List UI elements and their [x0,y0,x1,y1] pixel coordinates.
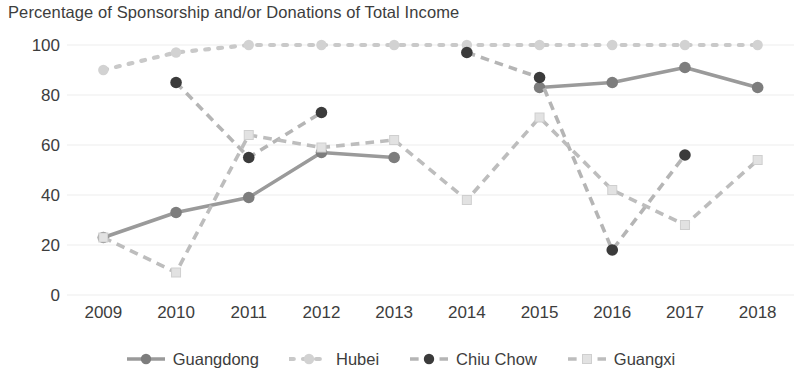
series-line [103,45,757,70]
data-point [170,77,182,89]
x-axis-tick-label: 2014 [448,303,486,323]
data-point [535,113,544,122]
data-point [679,149,691,161]
plot-area [67,45,794,295]
data-point [388,152,400,164]
series-line [176,83,321,158]
legend-item-guangxi[interactable]: Guangxi [567,350,675,369]
data-point [534,40,544,50]
x-axis-tick-label: 2015 [521,303,559,323]
data-point [534,72,546,84]
data-point [679,62,691,74]
x-axis-tick-label: 2011 [230,303,267,323]
legend-item-hubei[interactable]: Hubei [289,350,379,369]
data-point [753,156,762,165]
x-axis-tick-label: 2016 [593,303,631,323]
data-point [461,47,473,59]
legend-label: Chiu Chow [456,350,537,369]
data-point [172,268,181,277]
y-axis-tick-label: 0 [8,287,60,304]
data-point [680,221,689,230]
legend-label: Guangdong [173,350,259,369]
y-axis-tick-label: 100 [8,37,60,54]
data-point [243,192,255,204]
data-point [243,152,255,164]
data-point [752,82,764,94]
data-point [317,143,326,152]
data-point [98,65,108,75]
chart-legend: GuangdongHubeiChiu ChowGuangxi [0,345,801,373]
data-point [316,107,328,119]
chart-canvas [67,45,794,295]
legend-key-icon [289,352,329,366]
y-axis-tick-label: 40 [8,187,60,204]
data-point [244,40,254,50]
y-axis-tick-label: 20 [8,237,60,254]
chart-title: Percentage of Sponsorship and/or Donatio… [8,3,459,22]
y-axis-tick-label: 80 [8,87,60,104]
x-axis-tick-label: 2018 [739,303,777,323]
data-point [607,40,617,50]
x-axis-tick-label: 2017 [666,303,704,323]
data-point [462,196,471,205]
data-point [171,47,181,57]
x-axis-tick-label: 2010 [157,303,195,323]
legend-key-icon [567,352,607,366]
data-point [390,136,399,145]
data-point [752,40,762,50]
legend-key-icon [409,352,449,366]
y-axis-tick-label: 60 [8,137,60,154]
x-axis-tick-label: 2009 [84,303,122,323]
x-axis-tick-label: 2012 [303,303,341,323]
data-point [99,233,108,242]
x-axis: 2009201020112012201320142015201620172018 [0,303,801,329]
x-axis-tick-label: 2013 [375,303,413,323]
legend-item-chiu-chow[interactable]: Chiu Chow [409,350,537,369]
data-point [680,40,690,50]
legend-key-icon [126,352,166,366]
data-point [316,40,326,50]
data-point [608,186,617,195]
data-point [244,131,253,140]
data-point [170,207,182,219]
data-point [606,77,618,89]
legend-label: Hubei [336,350,379,369]
data-point [389,40,399,50]
series-line [540,68,758,88]
series-layer [98,40,764,277]
data-point [606,244,618,256]
series-guangdong [98,62,764,244]
chart-figure: Percentage of Sponsorship and/or Donatio… [0,0,801,376]
legend-item-guangdong[interactable]: Guangdong [126,350,259,369]
legend-label: Guangxi [614,350,675,369]
